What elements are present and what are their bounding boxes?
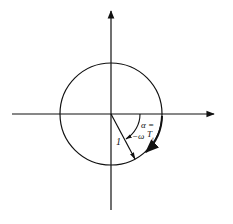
unit-circle-diagram: 1 α = −ω T t: [0, 0, 233, 224]
angle-label-omega: −ω: [132, 131, 144, 141]
radius-label: 1: [116, 136, 121, 147]
